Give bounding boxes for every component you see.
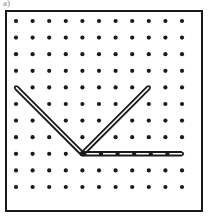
peg-dot <box>180 102 184 106</box>
peg-dot <box>64 85 68 89</box>
peg-dot <box>14 102 18 106</box>
peg-dot <box>47 168 51 172</box>
peg-dot <box>130 19 134 23</box>
peg-dot <box>147 185 151 189</box>
peg-dot <box>64 119 68 123</box>
peg-dot <box>163 119 167 123</box>
peg-dot <box>14 168 18 172</box>
peg-dot <box>130 85 134 89</box>
peg-dot <box>47 36 51 40</box>
peg-dot <box>80 168 84 172</box>
peg-dot <box>180 85 184 89</box>
peg-dot <box>130 36 134 40</box>
peg-dot <box>114 19 118 23</box>
peg-dot <box>97 69 101 73</box>
peg-dot <box>47 185 51 189</box>
peg-dot <box>14 19 18 23</box>
peg-dot <box>114 85 118 89</box>
peg-dot <box>114 69 118 73</box>
peg-dot <box>147 135 151 139</box>
angle-vertex <box>80 151 85 156</box>
peg-dot <box>14 36 18 40</box>
peg-dot <box>47 19 51 23</box>
geoboard-canvas <box>7 12 201 210</box>
peg-dot <box>147 102 151 106</box>
peg-dot <box>31 52 35 56</box>
peg-dot <box>114 168 118 172</box>
peg-dot <box>31 119 35 123</box>
peg-dot <box>163 168 167 172</box>
peg-dot <box>31 36 35 40</box>
peg-dot <box>130 119 134 123</box>
peg-dot <box>80 69 84 73</box>
peg-dot <box>31 19 35 23</box>
peg-dot <box>47 85 51 89</box>
peg-dot <box>64 36 68 40</box>
peg-dot <box>163 85 167 89</box>
peg-dot <box>64 152 68 156</box>
peg-dot <box>14 135 18 139</box>
peg-dot <box>130 185 134 189</box>
peg-dot <box>80 85 84 89</box>
peg-dot <box>80 102 84 106</box>
peg-dot <box>97 102 101 106</box>
peg-dot <box>97 185 101 189</box>
peg-dot <box>114 185 118 189</box>
peg-dot-grid <box>14 19 184 189</box>
peg-dot <box>130 69 134 73</box>
peg-dot <box>64 19 68 23</box>
peg-dot <box>180 69 184 73</box>
peg-dot <box>64 168 68 172</box>
peg-dot <box>80 185 84 189</box>
peg-dot <box>130 135 134 139</box>
peg-dot <box>163 135 167 139</box>
peg-dot <box>14 119 18 123</box>
peg-dot <box>147 19 151 23</box>
peg-dot <box>80 119 84 123</box>
peg-dot <box>14 52 18 56</box>
peg-dot <box>114 52 118 56</box>
peg-dot <box>130 168 134 172</box>
peg-dot <box>114 36 118 40</box>
peg-dot <box>47 102 51 106</box>
peg-dot <box>97 36 101 40</box>
geoboard-frame <box>5 10 203 212</box>
peg-dot <box>147 36 151 40</box>
peg-dot <box>31 185 35 189</box>
peg-dot <box>180 52 184 56</box>
peg-dot <box>114 102 118 106</box>
part-label: a) <box>3 0 10 8</box>
peg-dot <box>130 52 134 56</box>
peg-dot <box>163 69 167 73</box>
peg-dot <box>80 135 84 139</box>
peg-dot <box>97 168 101 172</box>
peg-dot <box>31 168 35 172</box>
peg-dot <box>163 102 167 106</box>
peg-dot <box>47 69 51 73</box>
peg-dot <box>147 69 151 73</box>
peg-dot <box>31 135 35 139</box>
peg-dot <box>163 185 167 189</box>
peg-dot <box>97 52 101 56</box>
peg-dot <box>80 52 84 56</box>
peg-dot <box>180 36 184 40</box>
peg-dot <box>147 52 151 56</box>
peg-dot <box>163 36 167 40</box>
peg-dot <box>97 119 101 123</box>
peg-dot <box>114 135 118 139</box>
peg-dot <box>180 168 184 172</box>
peg-dot <box>14 69 18 73</box>
peg-dot <box>64 102 68 106</box>
right-arm-core <box>82 87 148 153</box>
peg-dot <box>147 168 151 172</box>
peg-dot <box>163 19 167 23</box>
peg-dot <box>97 19 101 23</box>
geoboard-figure: a) Square geoboard peg grid with a V sha… <box>0 0 214 221</box>
peg-dot <box>31 69 35 73</box>
peg-dot <box>14 152 18 156</box>
peg-dot <box>147 119 151 123</box>
peg-dot <box>180 185 184 189</box>
peg-dot <box>180 135 184 139</box>
peg-dot <box>64 69 68 73</box>
peg-dot <box>64 52 68 56</box>
